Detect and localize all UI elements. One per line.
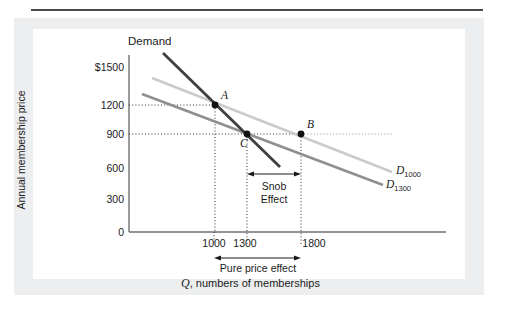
snob-effect-arrow-head-left [247,171,254,176]
curve-d1300 [142,94,383,185]
d1300-curve-label: D1300 [386,179,411,193]
x-axis-title-rest: , numbers of memberships [190,277,320,289]
ytick-label-900: 900 [74,129,124,140]
x-axis-title: Q, numbers of memberships [181,277,320,289]
point-c-label: C [240,138,248,150]
xtick-label-1300: 1300 [215,238,275,249]
snob-effect-label-line2: Effect [244,194,304,205]
point-b-marker [298,131,305,138]
ytick-label-1500: $1500 [74,62,124,73]
xtick-label-1800: 1800 [284,238,344,249]
d1000-curve-label: D1000 [396,165,421,179]
pure-price-effect-arrow-head-left [214,255,221,260]
point-b-label: B [307,119,314,131]
d1000-label-subscript: 1000 [404,170,421,179]
curve-demand [163,53,280,167]
pure-price-effect-label: Pure price effect [198,263,318,274]
ytick-label-600: 600 [74,163,124,174]
ytick-label-1200: 1200 [74,100,124,111]
snob-effect-arrow-head-right [294,171,301,176]
point-a-label: A [221,90,228,102]
y-axis-title: Annual membership price [15,85,27,215]
d1300-label-subscript: 1300 [394,184,411,193]
ytick-label-300: 300 [74,194,124,205]
point-a-marker [212,102,219,109]
ytick-label-0: 0 [74,227,124,238]
demand-curve-label: Demand [128,36,171,48]
snob-effect-label-line1: Snob [244,181,304,192]
pure-price-effect-arrow-head-right [294,255,301,260]
x-axis-title-variable: Q [181,276,190,290]
